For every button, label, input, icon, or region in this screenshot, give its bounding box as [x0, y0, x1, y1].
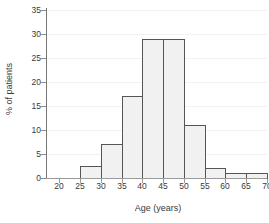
y-tick-label-wrap-0: 0: [20, 174, 41, 182]
x-axis-title: Age (years): [47, 203, 269, 213]
gridline-y-30: [47, 34, 267, 35]
x-tick-label-65: 65: [235, 182, 257, 191]
y-tick-mark-25: [41, 58, 46, 59]
bar-30-35: [101, 144, 123, 179]
x-tick-label-50: 50: [173, 182, 195, 191]
x-tick-label-25: 25: [69, 182, 91, 191]
histogram-chart: % of patients 05101520253035 20253035404…: [0, 0, 269, 223]
x-tick-label-20: 20: [48, 182, 70, 191]
x-tick-label-55: 55: [194, 182, 216, 191]
y-tick-mark-5: [41, 154, 46, 155]
y-tick-mark-20: [41, 82, 46, 83]
y-tick-label-20: 20: [23, 78, 41, 86]
y-tick-label-wrap-25: 25: [20, 54, 41, 62]
y-tick-label-0: 0: [23, 174, 41, 182]
y-tick-mark-30: [41, 34, 46, 35]
y-tick-label-wrap-10: 10: [20, 126, 41, 134]
x-tick-label-35: 35: [111, 182, 133, 191]
y-tick-label-30: 30: [23, 30, 41, 38]
x-tick-label-70: 70: [256, 182, 269, 191]
y-tick-mark-10: [41, 130, 46, 131]
y-tick-label-wrap-20: 20: [20, 78, 41, 86]
y-tick-label-wrap-35: 35: [20, 6, 41, 14]
gridline-y-35: [47, 10, 267, 11]
y-axis-line: [46, 8, 47, 179]
bar-45-50: [163, 39, 185, 179]
y-tick-mark-0: [41, 178, 46, 179]
x-tick-label-30: 30: [90, 182, 112, 191]
y-tick-label-35: 35: [23, 6, 41, 14]
y-tick-mark-35: [41, 10, 46, 11]
y-tick-label-5: 5: [23, 150, 41, 158]
y-tick-label-wrap-5: 5: [20, 150, 41, 158]
y-tick-mark-15: [41, 106, 46, 107]
y-tick-label-wrap-15: 15: [20, 102, 41, 110]
y-tick-label-10: 10: [23, 126, 41, 134]
bar-50-55: [184, 125, 206, 179]
plot-area: 05101520253035 2025303540455055606570: [0, 0, 269, 223]
bar-35-40: [122, 96, 143, 179]
y-tick-label-wrap-30: 30: [20, 30, 41, 38]
bar-40-45: [142, 39, 164, 179]
y-tick-label-25: 25: [23, 54, 41, 62]
x-tick-label-40: 40: [131, 182, 153, 191]
x-tick-label-60: 60: [214, 182, 236, 191]
x-tick-label-45: 45: [152, 182, 174, 191]
y-tick-label-15: 15: [23, 102, 41, 110]
